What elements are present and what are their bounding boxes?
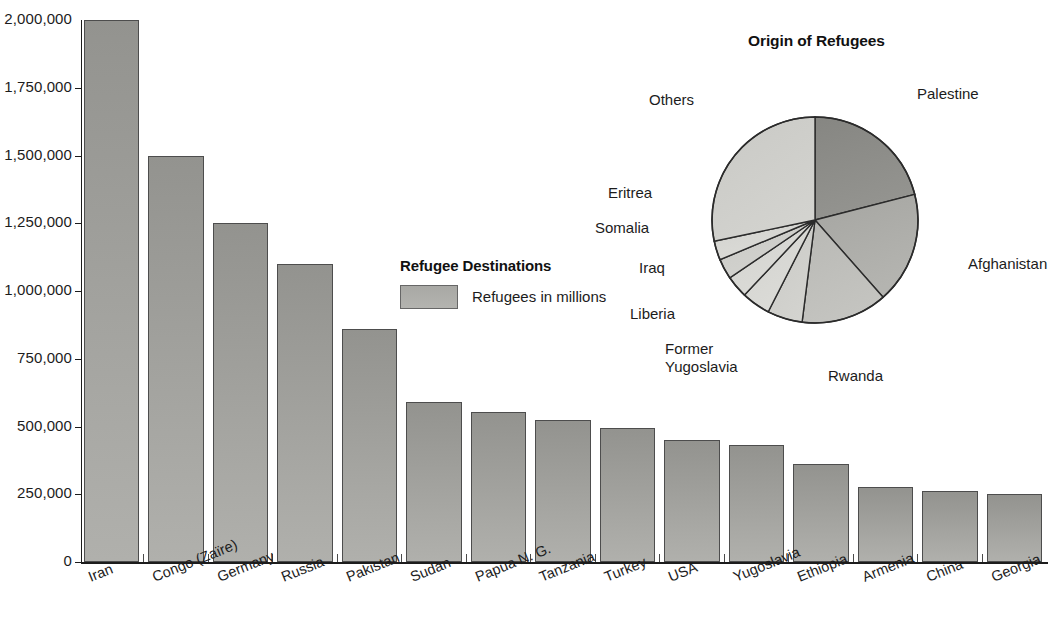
pie-slice-label: Somalia	[595, 219, 649, 236]
pie-graphic	[0, 0, 1048, 620]
pie-slice[interactable]	[720, 220, 815, 278]
pie-slice[interactable]	[712, 117, 815, 241]
pie-slice-label: Rwanda	[828, 367, 883, 384]
pie-slice-label-line: Former	[665, 340, 738, 358]
pie-slice[interactable]	[815, 194, 918, 297]
pie-slice-label: Afghanistan	[968, 255, 1047, 272]
pie-chart: Origin of Refugees	[0, 0, 1048, 620]
pie-chart-title: Origin of Refugees	[748, 32, 885, 50]
pie-slice[interactable]	[815, 117, 915, 220]
pie-slice-label-line: Yugoslavia	[665, 358, 738, 376]
pie-slice-label: FormerYugoslavia	[665, 340, 738, 376]
refugee-statistics-figure: 2,000,0001,750,0001,500,0001,250,0001,00…	[0, 0, 1048, 620]
pie-slice[interactable]	[768, 220, 815, 322]
pie-slice[interactable]	[714, 220, 815, 260]
pie-slice[interactable]	[802, 220, 883, 323]
pie-slice-label: Palestine	[917, 85, 979, 102]
pie-slice[interactable]	[744, 220, 815, 312]
pie-slice[interactable]	[730, 220, 815, 295]
pie-outline	[712, 117, 918, 323]
pie-slice-label: Iraq	[639, 259, 665, 276]
pie-slice-label: Others	[649, 91, 694, 108]
pie-slice-label: Eritrea	[608, 184, 652, 201]
pie-slice-label: Liberia	[630, 305, 675, 322]
